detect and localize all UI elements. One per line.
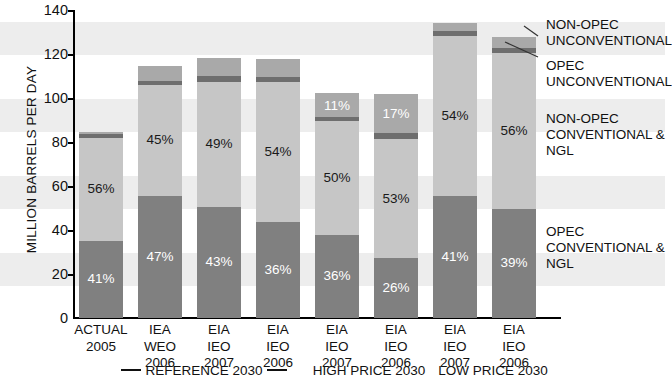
legend-label: NON-OPEC UNCONVENTIONAL <box>546 17 672 48</box>
legend-nonopec-unconventional: NON-OPEC UNCONVENTIONAL <box>546 17 672 49</box>
legend-label: NON-OPEC CONVENTIONAL & NGL <box>546 111 665 158</box>
legend-label: OPEC CONVENTIONAL & NGL <box>546 224 665 271</box>
legend-label: OPEC UNCONVENTIONAL <box>546 58 672 89</box>
legend-opec-conventional: OPEC CONVENTIONAL & NGL <box>546 224 665 272</box>
legend-nonopec-conventional: NON-OPEC CONVENTIONAL & NGL <box>546 111 665 159</box>
legend-opec-unconventional: OPEC UNCONVENTIONAL <box>546 58 672 90</box>
